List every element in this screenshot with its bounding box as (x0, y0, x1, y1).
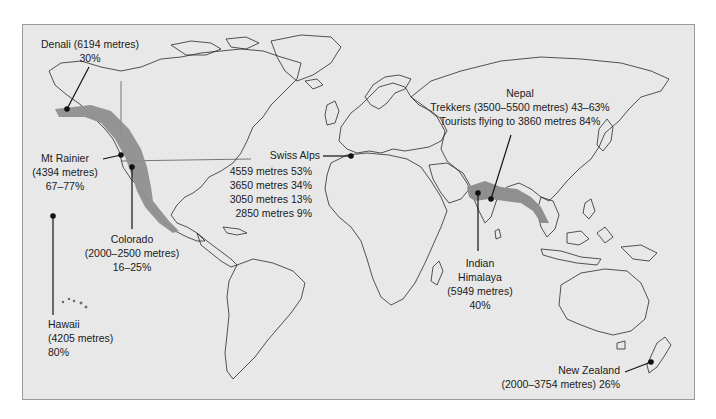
new-zealand-altitude-value: (2000–3754 metres) 26% (440, 377, 620, 391)
arabia-outline (429, 163, 471, 203)
world-map (23, 25, 695, 400)
rainier-name: Mt Rainier (20, 151, 110, 165)
indian-himalaya-line2: Himalaya (440, 270, 520, 284)
indian-himalaya-marker (476, 191, 480, 195)
asia-outline (411, 57, 669, 223)
label-denali: Denali (6194 metres) 30% (30, 37, 150, 65)
swiss-alps-table: 4559 metres 53% 3650 metres 34% 3050 met… (220, 164, 312, 220)
central-america-outline (197, 233, 237, 267)
swiss-row: 3650 metres 34% (220, 178, 312, 192)
colorado-marker (130, 165, 134, 169)
swiss-marker (349, 154, 353, 158)
swiss-row: 3050 metres 13% (220, 192, 312, 206)
colorado-value: 16–25% (82, 260, 182, 274)
indian-himalaya-altitude: (5949 metres) (440, 284, 520, 298)
hawaii-marker (51, 214, 55, 218)
label-nepal: Nepal Trekkers (3500–5500 metres) 43–63%… (420, 86, 620, 128)
nepal-trekkers: Trekkers (3500–5500 metres) 43–63% (420, 100, 620, 114)
label-hawaii: Hawaii (4205 metres) 80% (48, 317, 113, 359)
scandinavia-outline (365, 75, 411, 109)
swiss-name: Swiss Alps (220, 148, 320, 162)
rainier-marker (119, 153, 123, 157)
rainier-altitude: (4394 metres) (20, 165, 110, 179)
colorado-name: Colorado (82, 232, 182, 246)
swiss-row: 2850 metres 9% (220, 206, 312, 220)
label-colorado: Colorado (2000–2500 metres) 16–25% (82, 232, 182, 274)
label-swiss-alps: Swiss Alps (220, 148, 320, 162)
new-zealand-outline (647, 337, 671, 373)
uk-outline (325, 101, 339, 125)
greenland-outline (271, 35, 341, 81)
rainier-value: 67–77% (20, 179, 110, 193)
hawaii-value: 80% (48, 345, 113, 359)
colorado-altitude: (2000–2500 metres) (82, 246, 182, 260)
swiss-row: 4559 metres 53% (220, 164, 312, 178)
nepal-marker (489, 197, 493, 201)
label-mt-rainier: Mt Rainier (4394 metres) 67–77% (20, 151, 110, 193)
hawaii-altitude: (4205 metres) (48, 331, 113, 345)
indian-himalaya-value: 40% (440, 298, 520, 312)
new-zealand-name: New Zealand (520, 363, 620, 377)
iceland-outline (305, 79, 323, 89)
label-new-zealand-detail: (2000–3754 metres) 26% (440, 377, 620, 391)
australia-outline (559, 269, 649, 335)
indonesia-outline (541, 249, 601, 265)
hawaii-name: Hawaii (48, 317, 113, 331)
new-zealand-marker (649, 360, 653, 364)
nepal-tourists: Tourists flying to 3860 metres 84% (420, 114, 620, 128)
indian-himalaya-line1: Indian (440, 256, 520, 270)
himalaya-band (467, 181, 549, 223)
south-america-outline (225, 259, 305, 379)
africa-outline (325, 153, 447, 305)
nepal-name: Nepal (420, 86, 620, 100)
label-indian-himalaya: Indian Himalaya (5949 metres) 40% (440, 256, 520, 312)
denali-name: Denali (6194 metres) (30, 37, 150, 51)
denali-marker (65, 107, 69, 111)
label-new-zealand: New Zealand (520, 363, 620, 377)
denali-value: 30% (30, 51, 150, 65)
map-frame (22, 24, 695, 400)
